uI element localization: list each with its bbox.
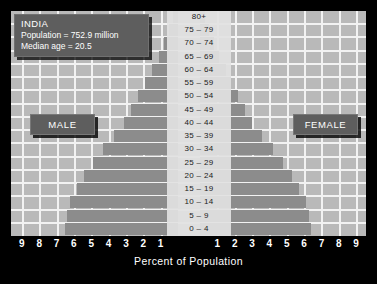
country-info-box: INDIA Population = 752.9 million Median … bbox=[14, 14, 149, 57]
age-group-label: 80+ bbox=[169, 11, 229, 22]
age-group-label: 40 – 44 bbox=[169, 117, 229, 128]
population-pyramid-screenshot: 80+75 – 7970 – 7465 – 6960 – 6455 – 5950… bbox=[0, 0, 377, 284]
age-group-label: 75 – 79 bbox=[169, 24, 229, 35]
bar-male bbox=[67, 210, 178, 222]
bar-male bbox=[77, 183, 178, 195]
bar-male bbox=[70, 196, 178, 208]
x-axis-tick: 6 bbox=[67, 238, 81, 249]
x-axis-tick: 7 bbox=[314, 238, 328, 249]
age-group-label: 60 – 64 bbox=[169, 64, 229, 75]
age-group-label: 5 – 9 bbox=[169, 210, 229, 221]
x-axis-tick: 8 bbox=[332, 238, 346, 249]
x-axis-tick: 9 bbox=[349, 238, 363, 249]
x-axis-tick: 6 bbox=[297, 238, 311, 249]
x-axis-tick: 4 bbox=[262, 238, 276, 249]
age-group-label: 70 – 74 bbox=[169, 37, 229, 48]
x-axis-tick: 5 bbox=[84, 238, 98, 249]
x-axis-tick: 7 bbox=[50, 238, 64, 249]
x-axis-tick: 3 bbox=[245, 238, 259, 249]
bar-male bbox=[93, 157, 178, 169]
age-group-label: 30 – 34 bbox=[169, 143, 229, 154]
age-group-label: 10 – 14 bbox=[169, 196, 229, 207]
age-group-label: 35 – 39 bbox=[169, 130, 229, 141]
median-age-value: Median age = 20.5 bbox=[21, 41, 142, 52]
x-axis: 987654321123456789 Percent of Population bbox=[0, 238, 377, 284]
country-name: INDIA bbox=[21, 18, 142, 30]
x-axis-tick: 4 bbox=[102, 238, 116, 249]
x-axis-tick: 2 bbox=[228, 238, 242, 249]
age-group-label: 25 – 29 bbox=[169, 157, 229, 168]
age-group-label: 50 – 54 bbox=[169, 90, 229, 101]
x-axis-tick: 5 bbox=[280, 238, 294, 249]
x-axis-tick: 3 bbox=[119, 238, 133, 249]
x-axis-tick: 9 bbox=[15, 238, 29, 249]
legend-female: FEMALE bbox=[293, 114, 358, 135]
population-value: Population = 752.9 million bbox=[21, 30, 142, 41]
age-group-label: 0 – 4 bbox=[169, 223, 229, 234]
age-group-label: 15 – 19 bbox=[169, 183, 229, 194]
age-group-label: 20 – 24 bbox=[169, 170, 229, 181]
age-group-label: 45 – 49 bbox=[169, 104, 229, 115]
bar-male bbox=[84, 170, 178, 182]
x-axis-tick: 1 bbox=[210, 238, 224, 249]
age-group-label: 55 – 59 bbox=[169, 77, 229, 88]
bar-male bbox=[65, 223, 178, 235]
legend-male: MALE bbox=[30, 114, 95, 135]
x-axis-tick: 2 bbox=[136, 238, 150, 249]
x-axis-title: Percent of Population bbox=[0, 255, 377, 267]
x-axis-tick: 1 bbox=[154, 238, 168, 249]
x-axis-tick: 8 bbox=[32, 238, 46, 249]
age-group-label: 65 – 69 bbox=[169, 51, 229, 62]
